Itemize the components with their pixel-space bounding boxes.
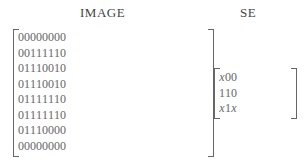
- se-title: SE: [240, 5, 256, 21]
- matrix-row: x00: [219, 70, 237, 86]
- matrix-cell: 0: [60, 108, 66, 124]
- image-title: IMAGE: [80, 5, 125, 21]
- matrix-row: 01110010: [18, 61, 66, 77]
- matrix-row: 00111110: [18, 46, 66, 62]
- matrix-row: 01110010: [18, 77, 66, 93]
- matrix-cell: x: [231, 101, 237, 117]
- matrix-row: 01111110: [18, 92, 66, 108]
- matrix-cell: 0: [60, 61, 66, 77]
- matrix-row: 00000000: [18, 139, 66, 155]
- se-right-bracket: [291, 68, 297, 119]
- image-matrix-table: 0000000000111110011100100111001001111110…: [18, 30, 66, 154]
- matrix-cell: 0: [60, 77, 66, 93]
- matrix-cell: 0: [60, 30, 66, 46]
- matrix-row: 110: [219, 86, 237, 102]
- matrix-cell: 0: [60, 123, 66, 139]
- matrix-cell: 0: [60, 92, 66, 108]
- matrix-row: 01111110: [18, 108, 66, 124]
- matrix-row: x1x: [219, 101, 237, 117]
- matrix-cell: 0: [231, 86, 237, 102]
- matrix-row: 01110000: [18, 123, 66, 139]
- matrix-cell: 0: [231, 70, 237, 86]
- matrix-cell: 0: [60, 139, 66, 155]
- matrix-cell: 0: [60, 46, 66, 62]
- se-matrix-table: x00110x1x: [219, 70, 237, 117]
- matrix-row: 00000000: [18, 30, 66, 46]
